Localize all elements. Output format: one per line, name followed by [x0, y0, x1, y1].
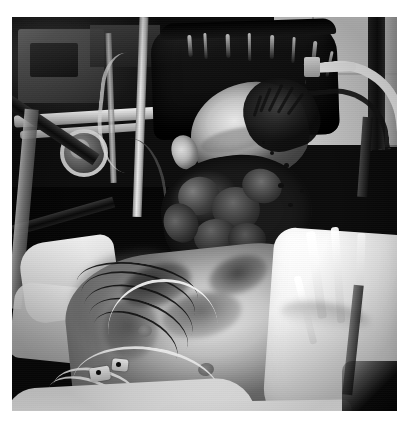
corner-shadow: [342, 361, 397, 411]
skin-fleck: [288, 203, 293, 207]
headrest-highlight: [226, 34, 231, 58]
skin-fleck: [306, 177, 309, 180]
skin-fleck: [278, 183, 284, 188]
headrest-highlight: [270, 35, 274, 59]
skin-fleck: [294, 173, 298, 177]
clinical-photograph: [12, 17, 397, 411]
electrode-snap: [96, 370, 101, 375]
electrode-snap: [116, 362, 121, 367]
bed-rail-clamp: [304, 57, 320, 77]
skin-fleck: [284, 163, 289, 168]
page-root: [0, 0, 410, 427]
skin-fleck: [262, 141, 265, 144]
headrest-highlight: [248, 33, 251, 61]
monitor-screen: [30, 43, 78, 77]
skin-fleck: [300, 189, 304, 193]
skin-fleck: [270, 151, 274, 155]
